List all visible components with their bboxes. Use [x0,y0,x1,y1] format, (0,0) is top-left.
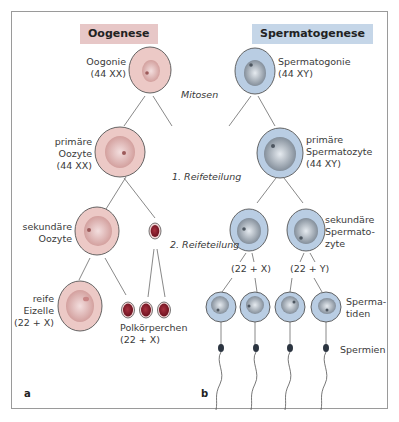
polar-bodies-label-line1: Polkörperchen [120,322,187,334]
secondary-spermatocyte-cell-2 [287,209,325,251]
line-x-left [222,278,232,292]
karyotype-y-label: (22 + Y) [290,263,329,275]
line-spermatogonium-right [258,96,275,126]
line-polar-right [157,249,165,297]
mature-egg-label-line2: Eizelle [14,305,54,317]
spermatid-3 [275,292,305,322]
panel-b-label: b [201,388,208,399]
primary-spermatocyte-cell [257,128,303,178]
mature-egg-cell [58,281,102,331]
spermatids-label-line2: tiden [346,308,386,320]
line-sec-spc2-b [310,253,315,262]
secondary-spermatocyte-label-line2: Spermato- [325,226,375,238]
secondary-spermatocyte-label-line1: sekundäre [325,214,375,226]
primary-oocyte-label-line2: Oozyte [50,148,92,160]
primary-oocyte-label-line3: (44 XX) [50,160,92,172]
secondary-spermatocyte-label-line3: zyte [325,238,375,250]
karyotype-x-label: (22 + X) [231,263,271,275]
line-x-right [255,278,257,292]
line-spermatogonium-left [229,96,251,126]
sperm-2 [251,344,259,410]
mature-egg-label-line1: reife [14,293,54,305]
oogonium-cell [129,47,171,93]
oogonium-label: Oogonie (44 XX) [86,56,126,80]
primary-spermatocyte-label-line2: Spermatozyte [306,146,372,158]
oogenesis-header: Oogenese [80,24,158,44]
spermatid-2 [240,292,270,322]
line-secondary-oocyte-right [105,258,126,295]
primary-oocyte-label-line1: primäre [50,136,92,148]
stage-meiosis2-label: 2. Reifeteilung [170,239,239,251]
secondary-oocyte-label-line1: sekundäre [20,221,72,233]
polar-body-3 [158,302,171,318]
line-oogonium-right [153,96,172,126]
oogonium-label-line1: Oogonie [86,56,126,68]
sperm-1 [216,344,224,410]
stage-meiosis1-label: 1. Reifeteilung [172,171,241,183]
mature-egg-label-line3: (22 + X) [14,317,54,329]
polar-body-2 [140,302,153,318]
secondary-oocyte-label: sekundäre Oozyte [20,221,72,245]
spermatid-1 [206,292,236,322]
panel-a-label: a [24,388,31,399]
line-sec-spc2-a [300,253,304,262]
sperm-label: Spermien [340,344,385,356]
line-sec-spc1-a [240,253,246,262]
spermatogonium-label-line2: (44 XY) [278,68,351,80]
oogonium-label-line2: (44 XX) [86,68,126,80]
spermatogonium-label-line1: Spermatogonie [278,56,351,68]
sperm-3 [285,344,293,410]
polar-bodies-label: Polkörperchen (22 + X) [120,322,187,346]
spermatogonium-cell [235,48,275,94]
secondary-oocyte-label-line2: Oozyte [20,233,72,245]
primary-oocyte-label: primäre Oozyte (44 XX) [50,136,92,172]
primary-spermatocyte-label-line1: primäre [306,134,372,146]
spermatids-label-line1: Sperma- [346,296,386,308]
polar-bodies-label-line2: (22 + X) [120,334,187,346]
secondary-oocyte-cell [75,207,119,255]
line-y-left [290,278,292,292]
spermatogonium-label: Spermatogonie (44 XY) [278,56,351,80]
line-oogonium-left [124,96,145,126]
mature-egg-label: reife Eizelle (22 + X) [14,293,54,329]
sperm-4 [321,344,329,410]
line-secondary-oocyte-left [79,258,90,280]
primary-spermatocyte-label-line3: (44 XY) [306,158,372,170]
secondary-spermatocyte-label: sekundäre Spermato- zyte [325,214,375,250]
spermatogenesis-header: Spermatogenese [252,24,373,44]
line-primary-spc-left [257,178,276,203]
line-y-right [314,278,322,292]
polar-body-1 [122,302,135,318]
line-sec-spc1-b [252,253,254,262]
first-polar-body [149,223,161,239]
primary-spermatocyte-label: primäre Spermatozyte (44 XY) [306,134,372,170]
spermatids-label: Sperma- tiden [346,296,386,320]
line-polar-left [148,249,154,297]
stage-mitosis-label: Mitosen [181,89,218,101]
spermatid-4 [311,292,341,322]
line-primary-oocyte-right [124,178,155,218]
primary-oocyte-cell [95,127,145,177]
line-primary-spc-right [284,178,303,203]
